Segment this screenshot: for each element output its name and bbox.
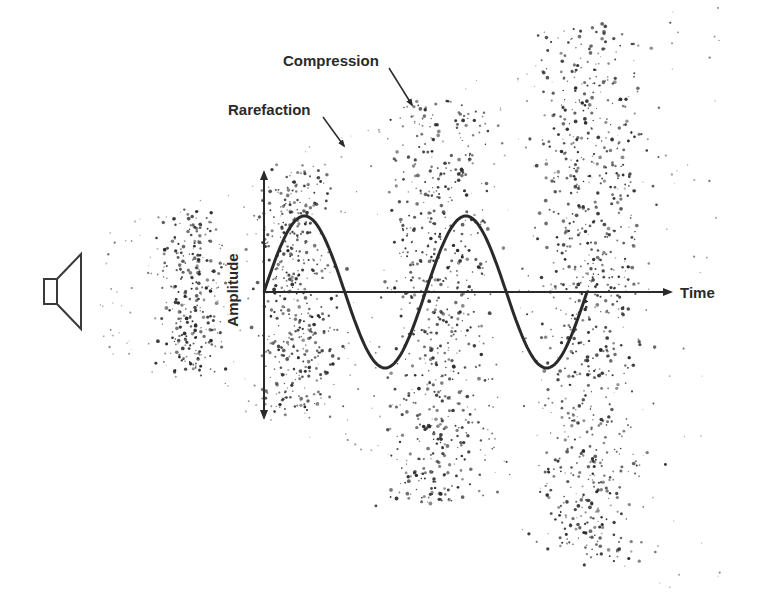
speaker-icon [44,254,81,329]
rarefaction-label: Rarefaction [228,101,311,118]
time-axis-label: Time [680,284,715,301]
diagram-canvas [0,0,757,613]
sound-wave-diagram: Compression Rarefaction Time Amplitude [0,0,757,613]
air-particles [100,7,721,588]
rarefaction-pointer-arrow [323,117,344,146]
compression-pointer-arrow [389,68,412,105]
compression-label: Compression [283,52,379,69]
amplitude-axis-label: Amplitude [224,253,241,326]
